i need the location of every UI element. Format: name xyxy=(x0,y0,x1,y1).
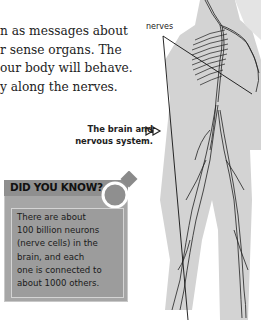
figure-caption: The brain and nervous system. xyxy=(60,124,153,147)
fact-line: brain, and each xyxy=(17,251,125,264)
did-you-know-text: There are about 100 billion neurons (ner… xyxy=(17,211,125,290)
body-line: y along the nerves. xyxy=(0,78,160,97)
male-symbol-icon xyxy=(101,171,141,211)
body-line: n as messages about xyxy=(0,22,160,41)
caption-line: nervous system. xyxy=(60,136,153,148)
double-triangle-arrow-icon xyxy=(145,126,163,136)
fact-line: (nerve cells) in the xyxy=(17,237,125,250)
caption-line: The brain and xyxy=(60,124,153,136)
body-paragraph: n as messages about r sense organs. The … xyxy=(0,22,160,96)
nervous-system-illustration xyxy=(140,0,261,320)
fact-line: 100 billion neurons xyxy=(17,224,125,237)
fact-line: one is connected to xyxy=(17,264,125,277)
nerves-label: nerves xyxy=(146,22,173,31)
fact-line: about 1000 others. xyxy=(17,277,125,290)
body-line: our body will behave. xyxy=(0,59,160,78)
body-line: r sense organs. The xyxy=(0,41,160,60)
fact-line: There are about xyxy=(17,211,125,224)
did-you-know-title: DID YOU KNOW? xyxy=(10,181,103,194)
